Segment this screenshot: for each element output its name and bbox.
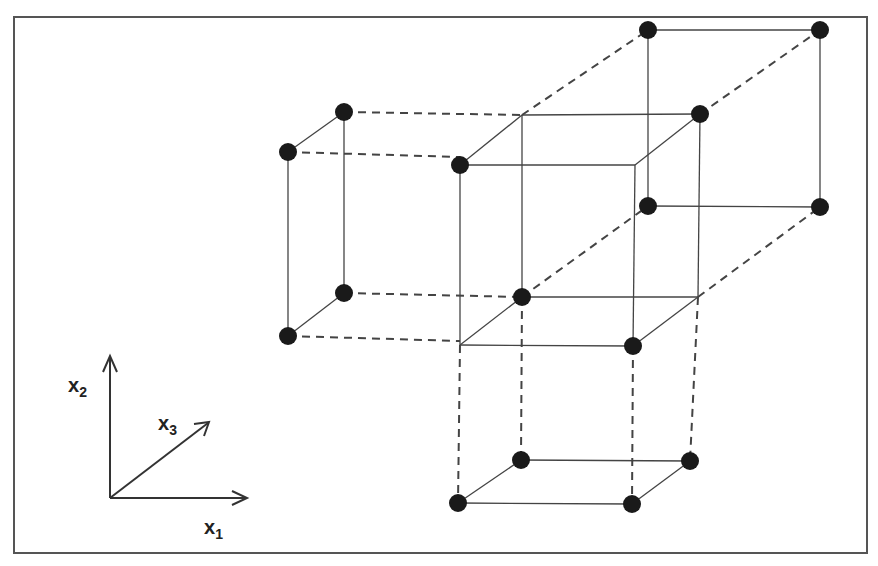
- design-point: [811, 21, 829, 39]
- solid-edge: [458, 460, 521, 503]
- x3-label: x3: [158, 412, 177, 438]
- solid-edge: [698, 114, 700, 297]
- dashed-edge: [522, 206, 648, 297]
- design-point: [335, 103, 353, 121]
- design-point: [681, 452, 699, 470]
- design-point: [811, 198, 829, 216]
- design-point: [639, 197, 657, 215]
- dashed-edge: [522, 30, 648, 115]
- solid-edges: [288, 30, 820, 504]
- dashed-edge: [288, 152, 460, 157]
- solid-edge: [460, 115, 522, 165]
- x2-label: x2: [68, 374, 87, 400]
- dashed-edge: [344, 293, 522, 297]
- dashed-edge: [632, 346, 633, 504]
- x1-label: x1: [204, 516, 223, 542]
- dashed-edge: [700, 30, 820, 114]
- dashed-edge: [690, 297, 698, 461]
- central-composite-design-diagram: [0, 0, 878, 566]
- design-point: [513, 288, 531, 306]
- solid-edge: [633, 165, 635, 346]
- solid-edge: [633, 297, 698, 346]
- design-point: [623, 495, 641, 513]
- solid-edge: [460, 345, 633, 346]
- design-point: [512, 451, 530, 469]
- solid-edge: [522, 114, 700, 115]
- dashed-edge: [521, 297, 522, 460]
- dashed-edge: [458, 345, 460, 503]
- design-point: [624, 337, 642, 355]
- dashed-edge: [288, 336, 460, 341]
- dashed-edge: [698, 207, 820, 297]
- design-point: [639, 21, 657, 39]
- solid-edge: [288, 293, 344, 336]
- design-point: [279, 143, 297, 161]
- solid-edge: [632, 461, 690, 504]
- solid-edge: [460, 297, 522, 345]
- dashed-edges: [288, 30, 820, 504]
- solid-edge: [458, 503, 632, 504]
- solid-edge: [521, 460, 690, 461]
- design-point: [449, 494, 467, 512]
- design-points: [279, 21, 829, 513]
- solid-edge: [648, 206, 820, 207]
- dashed-edge: [344, 112, 522, 115]
- design-point: [691, 105, 709, 123]
- design-point: [335, 284, 353, 302]
- solid-edge: [635, 114, 700, 165]
- design-point: [279, 327, 297, 345]
- solid-edge: [288, 112, 344, 152]
- design-point: [451, 156, 469, 174]
